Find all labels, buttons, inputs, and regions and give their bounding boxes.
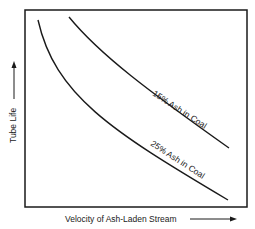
x-axis-arrow-icon — [230, 217, 237, 222]
plot-frame — [25, 10, 247, 207]
label-15-percent-ash: 15% Ash in Coal — [151, 88, 209, 130]
y-axis-label: Tube Life — [8, 108, 18, 143]
curve-15-percent-ash — [69, 17, 229, 148]
label-25-percent-ash: 25% Ash in Coal — [149, 138, 207, 180]
chart: 15% Ash in Coal 25% Ash in Coal Tube Lif… — [0, 0, 255, 229]
y-axis-arrow-icon — [12, 61, 17, 68]
x-axis-label: Velocity of Ash-Laden Stream — [65, 214, 177, 224]
